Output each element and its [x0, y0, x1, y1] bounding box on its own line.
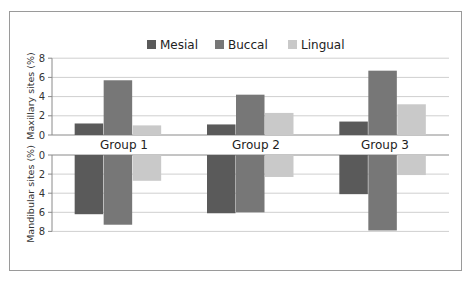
bar-maxillary-lingual-group-3 — [397, 104, 426, 135]
y-tick-label-maxillary-0: 0 — [39, 130, 45, 141]
category-label-group-2: Group 2 — [232, 138, 280, 152]
category-labels: Group 1 Group 2 Group 3 — [100, 138, 409, 152]
bar-maxillary-lingual-group-2 — [265, 113, 294, 135]
bar-mandibular-mesial-group-2 — [207, 155, 236, 213]
y-tick-label-mandibular-0: 0 — [39, 150, 45, 161]
bar-chart: Mesial Buccal Lingual 0246802468 Group 1… — [0, 0, 470, 285]
bar-maxillary-buccal-group-1 — [104, 80, 132, 135]
bar-mandibular-lingual-group-1 — [133, 155, 162, 181]
legend-swatch-lingual — [288, 40, 297, 49]
y-tick-label-maxillary-8: 8 — [39, 53, 45, 64]
y-axis-label-mandibular: Mandibular sites (%) — [25, 145, 36, 243]
bar-mandibular-lingual-group-2 — [265, 155, 294, 177]
legend-swatch-mesial — [147, 40, 156, 49]
axes: 0246802468 — [39, 53, 52, 237]
category-label-group-1: Group 1 — [100, 138, 148, 152]
bar-mandibular-buccal-group-2 — [236, 155, 265, 212]
legend: Mesial Buccal Lingual — [147, 38, 345, 52]
y-tick-label-maxillary-6: 6 — [39, 72, 45, 83]
y-tick-label-mandibular-2: 2 — [39, 169, 45, 180]
y-tick-label-maxillary-4: 4 — [39, 91, 45, 102]
bar-mandibular-buccal-group-1 — [104, 155, 132, 225]
legend-swatch-buccal — [215, 40, 224, 49]
bar-maxillary-mesial-group-2 — [207, 124, 236, 135]
bar-mandibular-mesial-group-1 — [75, 155, 104, 214]
legend-label-mesial: Mesial — [160, 38, 198, 52]
category-label-group-3: Group 3 — [361, 138, 409, 152]
legend-label-lingual: Lingual — [301, 38, 345, 52]
y-tick-label-maxillary-2: 2 — [39, 110, 45, 121]
y-tick-label-mandibular-8: 8 — [39, 226, 45, 237]
bar-mandibular-lingual-group-3 — [397, 155, 426, 175]
y-tick-label-mandibular-6: 6 — [39, 207, 45, 218]
bar-maxillary-lingual-group-1 — [133, 125, 162, 135]
bar-maxillary-buccal-group-2 — [236, 95, 265, 135]
legend-label-buccal: Buccal — [228, 38, 268, 52]
y-axis-label-maxillary: Maxillary sites (%) — [25, 52, 36, 140]
bar-maxillary-mesial-group-1 — [75, 123, 104, 135]
bar-maxillary-buccal-group-3 — [368, 71, 397, 135]
bar-mandibular-buccal-group-3 — [368, 155, 397, 230]
bar-maxillary-mesial-group-3 — [339, 122, 368, 135]
y-tick-label-mandibular-4: 4 — [39, 188, 45, 199]
bar-mandibular-mesial-group-3 — [339, 155, 368, 194]
